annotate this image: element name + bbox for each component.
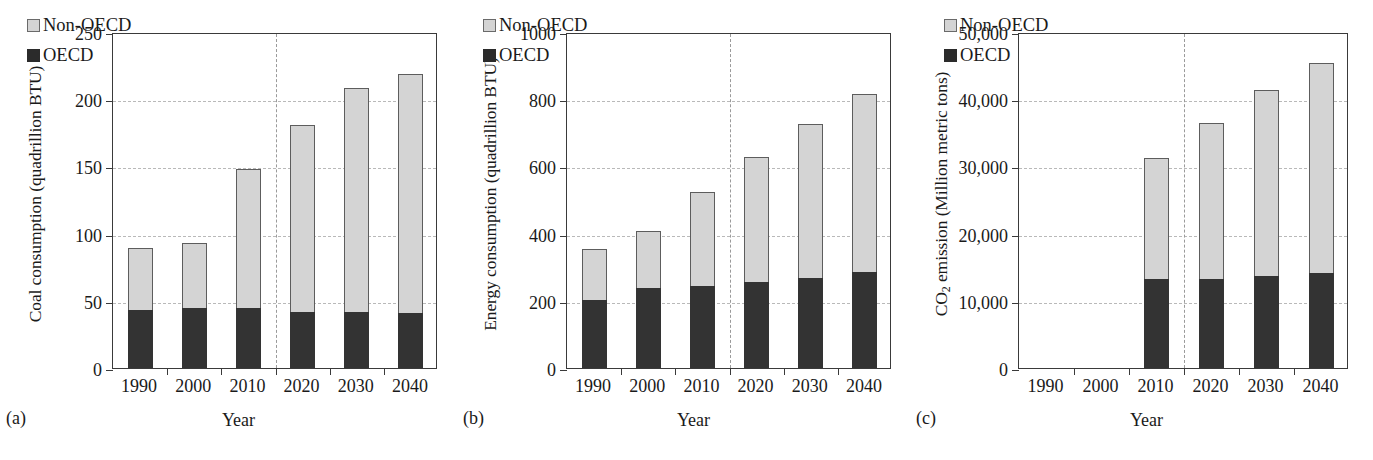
y-axis-tick — [1012, 101, 1019, 102]
legend-label-oecd: OECD — [43, 45, 93, 66]
panel-b-plot-area: 02004006008001000 — [566, 33, 891, 369]
stacked-bar — [1309, 63, 1334, 368]
gridline — [113, 303, 436, 304]
x-axis-tick-label: 2030 — [338, 376, 374, 397]
x-axis-tick — [1184, 368, 1185, 375]
bar-segment-oecd — [1199, 279, 1224, 368]
legend-swatch-non-oecd-icon — [27, 19, 40, 32]
y-axis-tick — [560, 101, 567, 102]
bar-segment-oecd — [690, 286, 715, 368]
gridline — [567, 236, 890, 237]
panel-c-x-axis-title: Year — [918, 410, 1373, 431]
gridline — [113, 236, 436, 237]
panel-b-x-axis-title: Year — [465, 410, 922, 431]
y-axis-tick — [560, 236, 567, 237]
stacked-bar — [182, 243, 207, 368]
stacked-bar — [852, 94, 877, 369]
panel-c-label: (c) — [916, 408, 936, 429]
bar-segment-oecd — [852, 272, 877, 368]
legend-swatch-oecd-icon — [27, 49, 40, 62]
stacked-bar — [236, 169, 261, 368]
bar-segment-oecd — [1254, 276, 1279, 368]
y-axis-tick — [1012, 303, 1019, 304]
legend-item-oecd: OECD — [483, 40, 587, 70]
bar-segment-oecd — [290, 312, 315, 368]
x-axis-tick-label: 2020 — [1193, 376, 1229, 397]
legend-swatch-non-oecd-icon — [483, 19, 496, 32]
x-axis-tick — [675, 368, 676, 375]
x-axis-tick — [221, 368, 222, 375]
panel-a-coal-consumption: Coal consumption (quadrillion BTU) 05010… — [0, 0, 457, 460]
legend-item-non-oecd: Non-OECD — [944, 10, 1048, 40]
x-axis-tick-label: 2010 — [1138, 376, 1174, 397]
y-axis-tick-label: 0 — [93, 360, 102, 381]
y-axis-tick-label: 30,000 — [959, 158, 1009, 179]
panel-a-legend: Non-OECD OECD — [27, 10, 131, 70]
x-axis-tick — [1294, 368, 1295, 375]
legend-label-oecd: OECD — [960, 45, 1010, 66]
y-axis-tick — [106, 101, 113, 102]
y-axis-tick-label: 800 — [529, 91, 556, 112]
y-axis-tick-label: 0 — [999, 360, 1008, 381]
x-axis-tick-label: 1990 — [575, 376, 611, 397]
y-axis-tick — [106, 370, 113, 371]
x-axis-tick-label: 2040 — [392, 376, 428, 397]
stacked-bar — [798, 124, 823, 368]
legend-swatch-oecd-icon — [944, 49, 957, 62]
y-axis-tick — [106, 303, 113, 304]
stacked-bar — [582, 249, 607, 368]
x-axis-tick-label: 1990 — [1028, 376, 1064, 397]
x-axis-tick-label: 2010 — [229, 376, 265, 397]
y-axis-tick-label: 40,000 — [959, 91, 1009, 112]
y-axis-tick — [1012, 236, 1019, 237]
panel-c-plot-area: 010,00020,00030,00040,00050,000 — [1018, 33, 1348, 369]
three-panel-bar-chart-figure: Coal consumption (quadrillion BTU) 05010… — [0, 0, 1373, 460]
y-axis-tick-label: 200 — [75, 91, 102, 112]
stacked-bar — [344, 88, 369, 368]
projection-divider-line — [276, 34, 277, 368]
panel-c-y-axis-title-pre: CO — [931, 292, 951, 316]
bar-segment-oecd — [398, 313, 423, 368]
x-axis-tick-label: 2040 — [846, 376, 882, 397]
stacked-bar — [690, 192, 715, 368]
stacked-bar — [1199, 123, 1224, 368]
x-axis-tick-label: 2030 — [1248, 376, 1284, 397]
x-axis-tick-label: 2010 — [683, 376, 719, 397]
panel-b-label: (b) — [463, 408, 484, 429]
y-axis-tick — [560, 168, 567, 169]
x-axis-tick — [384, 368, 385, 375]
y-axis-tick — [560, 303, 567, 304]
x-axis-tick-label: 2000 — [629, 376, 665, 397]
panel-c-co2-emission: CO2 emission (Million metric tons) 010,0… — [914, 0, 1371, 460]
y-axis-tick-label: 150 — [75, 158, 102, 179]
gridline — [113, 101, 436, 102]
x-axis-tick-label: 2020 — [284, 376, 320, 397]
x-axis-tick-label: 1990 — [121, 376, 157, 397]
legend-label-non-oecd: Non-OECD — [960, 15, 1048, 36]
legend-swatch-non-oecd-icon — [944, 19, 957, 32]
legend-swatch-oecd-icon — [483, 49, 496, 62]
projection-divider-line — [730, 34, 731, 368]
x-axis-tick-label: 2000 — [175, 376, 211, 397]
legend-item-oecd: OECD — [944, 40, 1048, 70]
legend-label-non-oecd: Non-OECD — [499, 15, 587, 36]
y-axis-tick — [1012, 370, 1019, 371]
stacked-bar — [398, 74, 423, 368]
gridline — [1019, 236, 1347, 237]
x-axis-tick — [1239, 368, 1240, 375]
y-axis-tick-label: 10,000 — [959, 292, 1009, 313]
bar-segment-oecd — [582, 300, 607, 368]
y-axis-tick — [1012, 168, 1019, 169]
panel-b-legend: Non-OECD OECD — [483, 10, 587, 70]
panel-a-label: (a) — [6, 408, 26, 429]
panel-b-energy-consumption: Energy consumption (quadrillion BTU) 020… — [457, 0, 914, 460]
y-axis-tick-label: 20,000 — [959, 225, 1009, 246]
x-axis-tick — [621, 368, 622, 375]
x-axis-tick — [167, 368, 168, 375]
bar-segment-oecd — [636, 288, 661, 368]
x-axis-tick-label: 2020 — [738, 376, 774, 397]
x-axis-tick — [730, 368, 731, 375]
stacked-bar — [744, 157, 769, 368]
bar-segment-oecd — [798, 278, 823, 368]
stacked-bar — [128, 248, 153, 368]
